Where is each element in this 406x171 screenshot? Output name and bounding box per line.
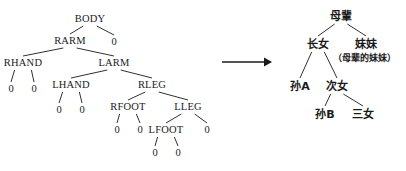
tree-edge <box>159 92 188 100</box>
tree-edge <box>79 92 82 103</box>
tree-edge <box>128 92 145 100</box>
tree-node-mubei: 母輩 <box>330 11 353 22</box>
tree-edge <box>343 94 363 106</box>
tree-edge <box>325 94 331 106</box>
tree-node-meimei: 妹妹 <box>355 39 378 50</box>
tree-node-n3: 0 <box>31 84 36 95</box>
tree-edge <box>136 114 140 123</box>
tree-node-rhand: RHAND <box>4 58 42 69</box>
tree-edge <box>23 48 63 56</box>
tree-edge <box>71 70 107 78</box>
tree-edge <box>318 24 335 36</box>
tree-edge <box>195 114 207 123</box>
tree-node-lfoot: LFOOT <box>149 125 184 136</box>
tree-edge <box>300 52 312 78</box>
tree-node-n10: 0 <box>175 148 180 159</box>
tree-edge <box>174 137 178 146</box>
tree-edge <box>347 24 366 36</box>
tree-node-zhangnv: 长女 <box>307 39 330 50</box>
tree-node-cinv: 次女 <box>326 81 349 92</box>
tree-node-n8: 0 <box>204 125 209 136</box>
tree-edge <box>11 70 15 82</box>
tree-edge <box>97 26 114 35</box>
tree-node-rarm: RARM <box>54 36 86 47</box>
tree-node-larm: LARM <box>98 58 129 69</box>
tree-node-n1: 0 <box>111 37 116 48</box>
tree-edge <box>77 48 114 56</box>
tree-node-rleg: RLEG <box>138 80 166 91</box>
tree-edge <box>59 92 63 103</box>
tree-node-n6: 0 <box>114 125 119 136</box>
tree-edge <box>117 114 120 123</box>
tree-edge <box>166 114 181 123</box>
tree-node-n9: 0 <box>152 148 157 159</box>
tree-edge <box>31 70 34 82</box>
tree-node-sunA: 孙A <box>290 81 311 92</box>
tree-edge <box>70 26 83 34</box>
tree-node-lleg: LLEG <box>174 102 202 113</box>
tree-edge <box>155 137 158 146</box>
tree-node-n7: 0 <box>137 125 142 136</box>
tree-edge <box>121 70 152 78</box>
diagram-canvas: BODYRARM0RHANDLARM00LHANDRLEG00RFOOTLLEG… <box>0 0 406 171</box>
tree-node-lhand: LHAND <box>52 80 90 91</box>
tree-node-body: BODY <box>75 14 106 25</box>
tree-node-sannv: 三女 <box>352 109 375 120</box>
tree-node-note: （母辈的妹妹） <box>333 54 396 63</box>
tree-node-rfoot: RFOOT <box>110 102 145 113</box>
tree-node-n2: 0 <box>8 84 13 95</box>
tree-node-sunB: 孙B <box>315 109 335 120</box>
transformation-arrow-head <box>264 58 272 67</box>
tree-node-n5: 0 <box>79 105 84 116</box>
tree-node-n4: 0 <box>56 105 61 116</box>
